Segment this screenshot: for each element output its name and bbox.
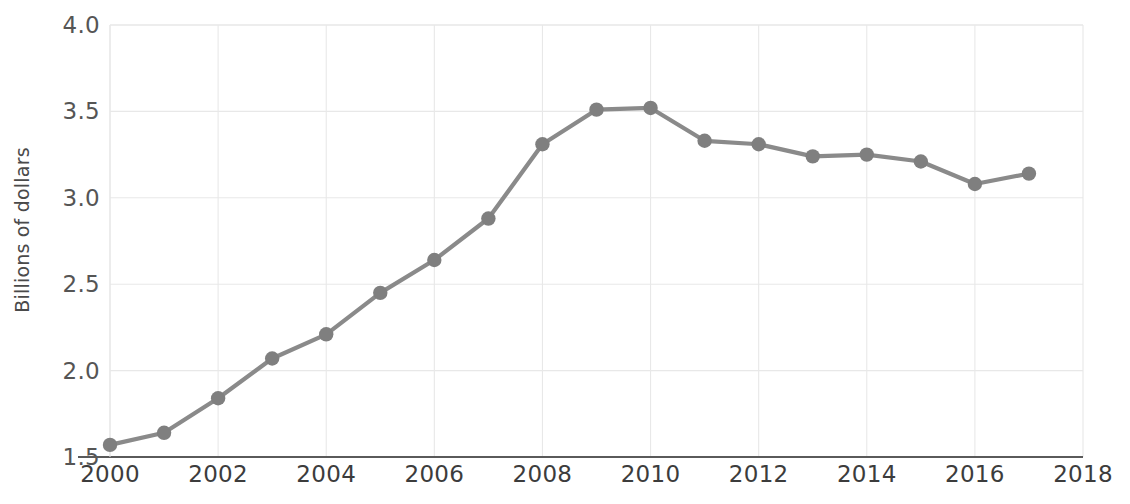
- data-point-marker: [806, 149, 820, 163]
- data-point-marker: [211, 391, 225, 405]
- x-axis-tick-label: 2006: [404, 461, 464, 487]
- line-chart: Billions of dollars 1.52.02.53.03.54.0 2…: [0, 0, 1130, 504]
- data-point-marker: [157, 426, 171, 440]
- x-axis-tick-label: 2016: [945, 461, 1005, 487]
- data-point-marker: [589, 102, 603, 116]
- data-point-marker: [968, 177, 982, 191]
- gridlines: [110, 25, 1083, 457]
- x-axis-tick-label: 2008: [513, 461, 573, 487]
- x-axis-tick-label: 2012: [729, 461, 789, 487]
- data-point-marker: [427, 253, 441, 267]
- x-axis-tick-label: 2000: [80, 461, 140, 487]
- plot-area: [0, 0, 1130, 504]
- data-point-marker: [860, 147, 874, 161]
- x-axis-tick-label: 2014: [837, 461, 897, 487]
- data-point-marker: [103, 438, 117, 452]
- x-axis-tick-label: 2018: [1053, 461, 1113, 487]
- data-point-marker: [535, 137, 549, 151]
- data-point-markers: [103, 101, 1036, 452]
- data-point-marker: [373, 286, 387, 300]
- data-point-marker: [914, 154, 928, 168]
- x-axis-tick-label: 2004: [296, 461, 356, 487]
- data-point-marker: [643, 101, 657, 115]
- x-axis-tick-label: 2010: [621, 461, 681, 487]
- data-point-marker: [751, 137, 765, 151]
- series-line: [110, 108, 1029, 445]
- data-point-marker: [697, 134, 711, 148]
- data-point-marker: [481, 211, 495, 225]
- data-point-marker: [265, 351, 279, 365]
- x-axis-tick-label: 2002: [188, 461, 248, 487]
- data-point-marker: [1022, 166, 1036, 180]
- data-point-marker: [319, 327, 333, 341]
